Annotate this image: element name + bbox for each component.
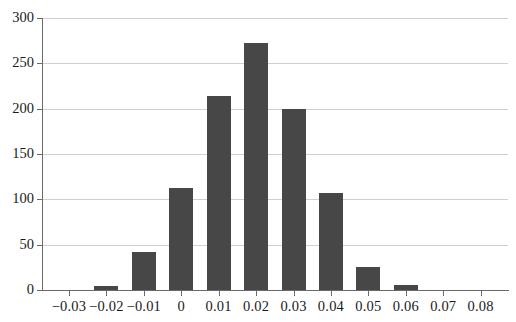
- y-tick-label: 150: [0, 146, 34, 161]
- y-tick-mark: [37, 290, 42, 291]
- bar: [282, 109, 306, 290]
- y-tick-label: 200: [0, 101, 34, 116]
- x-tick-mark: [256, 291, 257, 296]
- x-tick-mark: [69, 291, 70, 296]
- x-tick-mark: [368, 291, 369, 296]
- y-tick-mark: [37, 245, 42, 246]
- x-tick-mark: [481, 291, 482, 296]
- y-tick-label: 300: [0, 10, 34, 25]
- bar: [319, 193, 343, 290]
- y-axis-tick-labels: 050100150200250300: [0, 0, 34, 322]
- x-tick-mark: [219, 291, 220, 296]
- bar: [207, 96, 231, 290]
- x-tick-mark: [443, 291, 444, 296]
- bar: [169, 188, 193, 290]
- x-tick-mark: [181, 291, 182, 296]
- x-axis-line: [42, 290, 509, 291]
- bar: [132, 252, 156, 290]
- bar: [394, 285, 418, 290]
- x-tick-mark: [406, 291, 407, 296]
- y-tick-label: 0: [0, 282, 34, 297]
- x-tick-label: 0.08: [451, 299, 511, 315]
- bar: [244, 43, 268, 290]
- y-tick-mark: [37, 199, 42, 200]
- histogram-chart: 050100150200250300 −0.03−0.02−0.0100.010…: [0, 0, 516, 322]
- y-tick-label: 50: [0, 237, 34, 252]
- y-tick-mark: [37, 109, 42, 110]
- x-tick-mark: [106, 291, 107, 296]
- y-tick-mark: [37, 154, 42, 155]
- y-tick-mark: [37, 18, 42, 19]
- bar: [356, 267, 380, 290]
- x-tick-mark: [144, 291, 145, 296]
- y-tick-mark: [37, 63, 42, 64]
- y-tick-label: 250: [0, 55, 34, 70]
- bars-layer: [42, 18, 509, 290]
- y-tick-label: 100: [0, 191, 34, 206]
- bar: [94, 286, 118, 290]
- x-tick-mark: [331, 291, 332, 296]
- x-tick-mark: [294, 291, 295, 296]
